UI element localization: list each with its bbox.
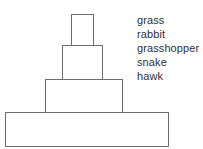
organism-legend-list: grass rabbit grasshopper snake hawk bbox=[137, 13, 203, 83]
diagram-canvas: grass rabbit grasshopper snake hawk bbox=[0, 0, 203, 149]
legend-item-rabbit[interactable]: rabbit bbox=[137, 27, 203, 41]
pyramid-tier-lower-middle[interactable] bbox=[45, 79, 123, 113]
pyramid-tier-base[interactable] bbox=[5, 112, 169, 147]
legend-item-hawk[interactable]: hawk bbox=[137, 69, 203, 83]
legend-item-grass[interactable]: grass bbox=[137, 13, 203, 27]
legend-item-snake[interactable]: snake bbox=[137, 55, 203, 69]
clipped-header-strip bbox=[0, 0, 203, 6]
legend-item-grasshopper[interactable]: grasshopper bbox=[137, 41, 203, 55]
pyramid-tier-top[interactable] bbox=[71, 14, 94, 46]
pyramid-tier-upper-middle[interactable] bbox=[62, 45, 103, 80]
